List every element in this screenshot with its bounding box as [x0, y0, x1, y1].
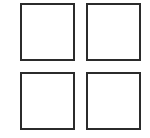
square-top-right	[86, 3, 141, 61]
square-bottom-right	[86, 72, 141, 130]
square-bottom-left	[20, 72, 75, 130]
square-top-left	[20, 3, 75, 61]
